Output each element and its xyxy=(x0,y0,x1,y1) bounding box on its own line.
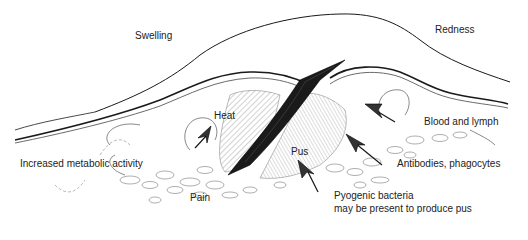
metabolic-label: Increased metabolic activity xyxy=(20,158,143,170)
metabolic-curve-bottom xyxy=(55,180,85,192)
pyogenic-label-line2: may be present to produce pus xyxy=(334,203,472,215)
heat-label: Heat xyxy=(214,110,235,122)
antibodies-label: Antibodies, phagocytes xyxy=(397,158,500,170)
pus-label: Pus xyxy=(291,146,308,158)
redness-label: Redness xyxy=(435,24,474,36)
skin-surface-right-inner xyxy=(330,72,508,108)
pain-label: Pain xyxy=(190,192,210,204)
skin-surface-left-base xyxy=(15,112,95,130)
heat-arrow xyxy=(195,126,211,148)
blood-lymph-arrow xyxy=(365,104,395,122)
pyogenic-label-line1: Pyogenic bacteria xyxy=(334,190,414,202)
swelling-label: Swelling xyxy=(135,30,172,42)
blood-lymph-label: Blood and lymph xyxy=(424,116,499,128)
metabolic-curve-top xyxy=(100,140,130,155)
